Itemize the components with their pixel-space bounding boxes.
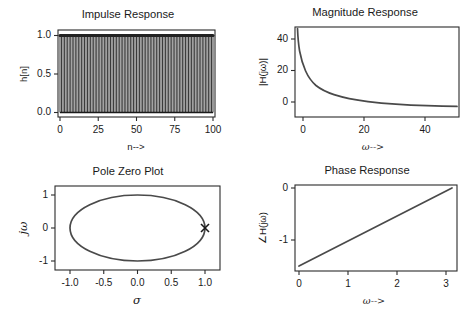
polezero-ytick-2: 1 — [42, 189, 48, 200]
polezero-xlabel: σ — [133, 293, 142, 307]
phase-xtick-3: 3 — [443, 278, 449, 289]
polezero-xtick-4: 1.0 — [198, 277, 212, 288]
impulse-xtick-2: 50 — [131, 124, 143, 135]
unit-circle — [70, 195, 205, 261]
polezero-xtick-3: 0.5 — [164, 277, 178, 288]
polezero-xtick-0: -1.0 — [61, 277, 79, 288]
impulse-xtick-1: 25 — [93, 124, 105, 135]
phase-title: Phase Response — [324, 164, 409, 176]
polezero-ytick-0: -1 — [39, 255, 48, 266]
impulse-xtick-0: 0 — [57, 124, 63, 135]
figure-grid: Impulse Response — [0, 0, 474, 315]
magnitude-ylabel: |H(jω)| — [257, 58, 268, 86]
magnitude-xtick-2: 40 — [419, 124, 431, 135]
phase-xtick-2: 2 — [394, 278, 400, 289]
polezero-plot-frame — [55, 186, 220, 270]
phase-xlabel: ω--> — [363, 295, 385, 306]
magnitude-xlabel: ω--> — [362, 141, 384, 152]
magnitude-title: Magnitude Response — [312, 6, 418, 18]
magnitude-plot-frame — [295, 27, 459, 117]
polezero-xtick-2: 0.0 — [131, 277, 145, 288]
magnitude-curve — [298, 29, 458, 107]
magnitude-ytick-1: 20 — [277, 64, 289, 75]
impulse-y-tickmarks — [54, 36, 58, 113]
impulse-ytick-2: 1.0 — [37, 29, 51, 40]
panel-impulse-response: Impulse Response — [0, 0, 237, 158]
phase-line — [299, 188, 452, 266]
polezero-x-tickmarks — [70, 270, 205, 274]
phase-x-tickmarks — [299, 271, 446, 275]
magnitude-xtick-0: 0 — [300, 124, 306, 135]
phase-y-tickmarks — [291, 188, 295, 240]
impulse-title: Impulse Response — [82, 8, 175, 20]
panel-phase-response: Phase Response -1 0 0 1 2 3 ω — [237, 158, 474, 315]
impulse-xtick-4: 100 — [205, 124, 222, 135]
impulse-xlabel: n--> — [127, 141, 145, 152]
polezero-ylabel: jω — [16, 221, 30, 238]
magnitude-response-svg: Magnitude Response 0 20 40 0 20 40 — [237, 0, 474, 158]
magnitude-x-tickmarks — [303, 117, 425, 121]
panel-pole-zero-plot: Pole Zero Plot -1 0 1 — [0, 158, 237, 315]
magnitude-ytick-2: 40 — [277, 33, 289, 44]
phase-xtick-1: 1 — [345, 278, 351, 289]
impulse-response-svg: Impulse Response — [0, 0, 237, 158]
impulse-ytick-0: 0.0 — [37, 106, 51, 117]
magnitude-xtick-1: 20 — [358, 124, 370, 135]
panel-magnitude-response: Magnitude Response 0 20 40 0 20 40 — [237, 0, 474, 158]
polezero-title: Pole Zero Plot — [93, 165, 165, 177]
impulse-ytick-1: 0.5 — [37, 68, 51, 79]
phase-ylabel: ∠H(jω) — [257, 212, 268, 244]
polezero-xtick-1: -0.5 — [95, 277, 113, 288]
polezero-ytick-1: 0 — [42, 222, 48, 233]
impulse-ylabel: h[n] — [18, 66, 29, 82]
phase-response-svg: Phase Response -1 0 0 1 2 3 ω — [237, 158, 474, 315]
phase-ytick-1: 0 — [282, 182, 288, 193]
impulse-xtick-3: 75 — [169, 124, 181, 135]
phase-ytick-0: -1 — [279, 234, 288, 245]
impulse-x-tickmarks — [60, 117, 213, 121]
impulse-stem-series — [60, 36, 213, 113]
polezero-y-tickmarks — [51, 195, 55, 261]
phase-xtick-0: 0 — [296, 278, 302, 289]
magnitude-ytick-0: 0 — [282, 96, 288, 107]
magnitude-y-tickmarks — [291, 39, 295, 102]
pole-zero-svg: Pole Zero Plot -1 0 1 — [0, 158, 237, 315]
